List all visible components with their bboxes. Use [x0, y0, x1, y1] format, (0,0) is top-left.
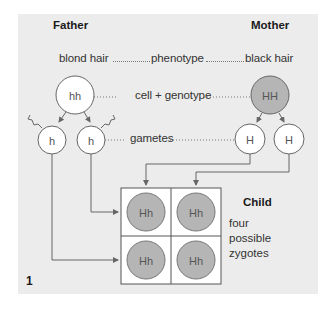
phenotype-label: phenotype [151, 52, 204, 64]
zygote-note-line-3: zygotes [229, 246, 271, 261]
father-gamete-2-label: h [88, 135, 94, 147]
zygote-note-line-1: four [229, 216, 271, 231]
punnett-square: Hh Hh Hh Hh [121, 188, 221, 284]
mother-gamete-2: H [274, 124, 304, 154]
dotted-leader [206, 61, 244, 62]
genotype-label: cell + genotype [135, 89, 211, 101]
mother-genotype: HH [262, 90, 278, 102]
zygote-cell-3: Hh [127, 241, 165, 279]
zygote-cell-4: Hh [177, 241, 215, 279]
svg-text:Hh: Hh [139, 255, 153, 267]
mother-cell: HH [251, 76, 289, 114]
mother-gamete-2-label: H [285, 134, 293, 146]
gametes-label: gametes [130, 132, 173, 144]
father-cell: hh [56, 76, 94, 114]
father-genotype: hh [69, 90, 81, 102]
mother-gamete-1-label: H [246, 134, 254, 146]
inheritance-diagram: hh h h HH H H [0, 0, 334, 311]
svg-text:Hh: Hh [189, 255, 203, 267]
mother-gamete-1: H [235, 124, 265, 154]
father-gamete-1-label: h [49, 135, 55, 147]
zygote-note-line-2: possible [229, 231, 271, 246]
child-header: Child [243, 196, 272, 208]
zygote-cell-1: Hh [127, 193, 165, 231]
zygote-note: four possible zygotes [229, 216, 271, 261]
phenotype-mother: black hair [245, 52, 293, 64]
svg-text:Hh: Hh [189, 207, 203, 219]
mother-header: Mother [251, 19, 289, 31]
dotted-leader [113, 61, 150, 62]
figure-number: 1 [26, 274, 33, 288]
zygote-cell-2: Hh [177, 193, 215, 231]
father-gamete-2: h [77, 115, 115, 154]
father-header: Father [53, 19, 88, 31]
svg-text:Hh: Hh [139, 207, 153, 219]
phenotype-father: blond hair [59, 52, 109, 64]
